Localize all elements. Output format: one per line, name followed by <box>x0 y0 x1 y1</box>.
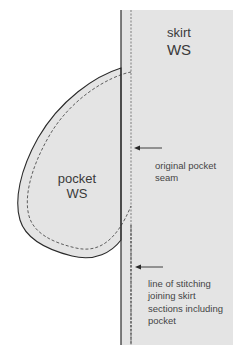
pocket-shape <box>18 68 121 258</box>
annotation-line: sections including <box>148 303 240 315</box>
skirt-label-line1: skirt <box>154 26 204 41</box>
annotation-original-pocket-seam: original pocket seam <box>155 160 240 185</box>
annotation-joining-stitching: line of stitching joining skirt sections… <box>148 278 240 327</box>
pocket-label-line2: WS <box>52 187 102 202</box>
skirt-label: skirt WS <box>154 26 204 58</box>
annotation-line: seam <box>155 172 240 184</box>
skirt-label-line2: WS <box>154 41 204 58</box>
annotation-line: original pocket <box>155 160 240 172</box>
annotation-line: pocket <box>148 315 240 327</box>
annotation-line: line of stitching <box>148 278 240 290</box>
pocket-label-line1: pocket <box>52 172 102 187</box>
pocket-label: pocket WS <box>52 172 102 202</box>
annotation-line: joining skirt <box>148 290 240 302</box>
